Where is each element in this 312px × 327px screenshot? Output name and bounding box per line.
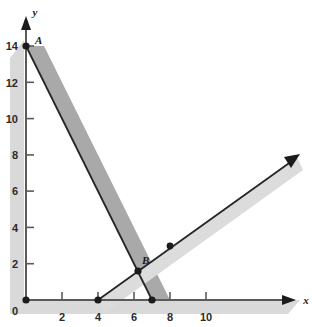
y-tick-label-10: 10 (6, 113, 18, 125)
x-tick-label-10: 10 (200, 311, 212, 323)
y-tick-label-2: 2 (12, 258, 18, 270)
point-x-7[interactable] (148, 296, 155, 303)
x-axis-ticks (62, 292, 206, 300)
point-on-ray-8-3[interactable] (167, 243, 174, 250)
x-axis-title: x (302, 294, 309, 306)
y-tick-label-8: 8 (12, 149, 18, 161)
shadow-band-group (10, 40, 303, 314)
x-axis-shadow-band (10, 300, 300, 314)
segment-a-to-x-intercept[interactable] (26, 46, 152, 300)
y-axis-title: y (31, 6, 38, 18)
point-a[interactable] (22, 42, 29, 49)
point-origin[interactable] (22, 296, 29, 303)
point-a-label: A (34, 34, 42, 46)
graph-canvas: 0 2 4 6 8 10 12 14 2 4 6 8 10 y x (0, 0, 312, 327)
y-axis-ticks (26, 46, 34, 264)
x-tick-label-2: 2 (59, 311, 65, 323)
y-tick-label-6: 6 (12, 185, 18, 197)
y-tick-label-0: 0 (12, 305, 18, 317)
x-tick-label-8: 8 (167, 311, 173, 323)
point-x-4[interactable] (94, 296, 101, 303)
y-tick-label-14: 14 (6, 40, 19, 52)
y-tick-label-4: 4 (12, 222, 19, 234)
point-b-label: B (141, 254, 149, 266)
y-axis-arrowhead (21, 16, 31, 30)
coordinate-plane-plot: 0 2 4 6 8 10 12 14 2 4 6 8 10 y x (0, 0, 312, 327)
y-tick-label-12: 12 (6, 77, 18, 89)
x-tick-label-6: 6 (131, 311, 137, 323)
point-b[interactable] (134, 267, 141, 274)
x-tick-label-4: 4 (95, 311, 102, 323)
